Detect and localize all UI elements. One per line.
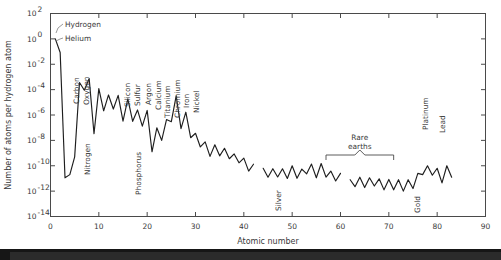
x-tick-label: 10	[94, 222, 104, 231]
element-label-silicon: Silicon	[123, 83, 132, 107]
y-tick-mantissa: 10	[27, 85, 37, 94]
y-tick-mantissa: 10	[27, 60, 37, 69]
rare-earths-label-line1: Rare	[351, 133, 368, 142]
helium-leader	[56, 38, 63, 41]
x-axis-title: Atomic number	[237, 237, 299, 246]
x-tick-label: 90	[481, 222, 491, 231]
element-label-silver: Silver	[274, 189, 283, 211]
y-tick-exponent: -8	[38, 132, 46, 141]
y-tick-exponent: -14	[38, 208, 50, 217]
x-tick-label: 80	[432, 222, 442, 231]
bottom-bar-inner	[10, 252, 501, 260]
y-tick-label: 100	[27, 30, 43, 43]
element-label-argon: Argon	[144, 83, 153, 105]
y-tick-mantissa: 10	[27, 136, 37, 145]
y-tick-exponent: -4	[38, 81, 46, 90]
y-tick-label: 10-12	[27, 183, 50, 196]
element-label-nickel: Nickel	[192, 91, 201, 113]
y-tick-label: 10-10	[27, 157, 50, 170]
hydrogen-leader	[56, 24, 63, 33]
y-tick-label: 10-6	[27, 106, 45, 119]
abundance-chart-figure: 0102030405060708090Atomic number10210010…	[0, 0, 501, 260]
x-tick-label: 30	[191, 222, 201, 231]
element-label-calcium: Calcium	[154, 80, 163, 110]
rare-earths-label-line2: earths	[348, 142, 372, 151]
y-tick-mantissa: 10	[27, 212, 37, 221]
y-tick-mantissa: 10	[27, 111, 37, 120]
element-label-gold: Gold	[413, 196, 422, 213]
y-axis-title: Number of atoms per hydrogen atom	[4, 40, 13, 190]
x-tick-label: 0	[48, 222, 53, 231]
y-tick-exponent: -12	[38, 183, 50, 192]
bottom-black-bar	[0, 249, 501, 260]
element-label-chromium: Chromium	[173, 80, 182, 118]
y-tick-exponent: -2	[38, 56, 46, 65]
element-label-carbon: Carbon	[72, 77, 81, 104]
y-tick-exponent: -10	[38, 157, 50, 166]
element-label-nitrogen: Nitrogen	[83, 143, 92, 175]
y-tick-label: 10-2	[27, 56, 45, 69]
element-label-iron: Iron	[182, 93, 191, 108]
element-label-titanium: Titanium	[163, 86, 172, 119]
y-tick-exponent: 2	[38, 5, 43, 14]
y-tick-label: 10-14	[27, 208, 50, 221]
cosmic-abundance-plot: 0102030405060708090Atomic number10210010…	[0, 0, 501, 249]
element-label-lead: Lead	[438, 115, 447, 133]
element-label-oxygen: Oxygen	[82, 76, 91, 105]
element-label-sulfur: Sulfur	[133, 83, 142, 106]
x-tick-label: 70	[384, 222, 394, 231]
rare-earths-bracket	[326, 150, 394, 160]
x-tick-label: 60	[336, 222, 346, 231]
abundance-curve	[350, 166, 452, 191]
element-label-helium: Helium	[65, 34, 91, 43]
x-tick-label: 40	[239, 222, 249, 231]
y-tick-label: 102	[27, 5, 43, 18]
x-tick-label: 50	[287, 222, 297, 231]
y-tick-mantissa: 10	[27, 187, 37, 196]
element-label-hydrogen: Hydrogen	[65, 20, 101, 29]
element-label-phosphorus: Phosphorus	[134, 152, 143, 195]
y-tick-label: 10-8	[27, 132, 45, 145]
element-label-platinum: Platinum	[421, 97, 430, 130]
y-tick-exponent: -6	[38, 106, 46, 115]
y-tick-mantissa: 10	[27, 35, 37, 44]
abundance-curve	[263, 163, 340, 181]
y-tick-mantissa: 10	[27, 9, 37, 18]
y-tick-mantissa: 10	[27, 162, 37, 171]
y-tick-label: 10-4	[27, 81, 45, 94]
x-tick-label: 20	[142, 222, 152, 231]
y-tick-exponent: 0	[38, 30, 43, 39]
